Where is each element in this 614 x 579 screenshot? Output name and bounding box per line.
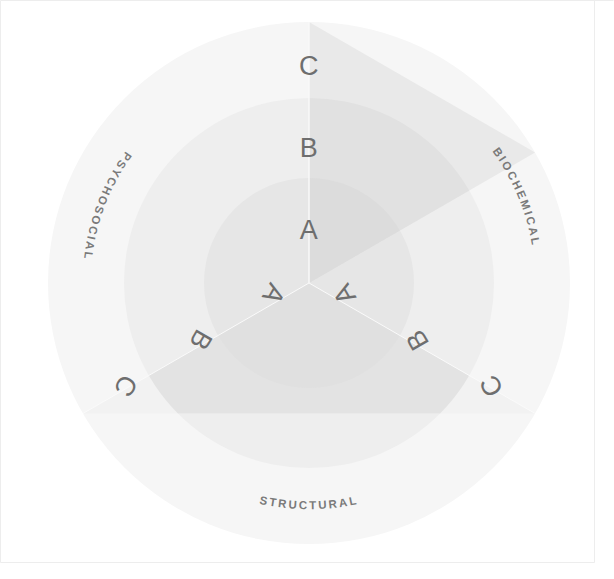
ring-label-b-psychosocial: B: [300, 133, 319, 163]
concentric-sector-diagram: C B A A B C A B C PSYCHOSOCIAL BIOCHEMIC…: [0, 0, 614, 579]
ring-label-c-psychosocial: C: [299, 51, 319, 81]
ring-label-a-psychosocial: A: [300, 215, 319, 245]
figure-root: C B A A B C A B C PSYCHOSOCIAL BIOCHEMIC…: [0, 0, 614, 579]
